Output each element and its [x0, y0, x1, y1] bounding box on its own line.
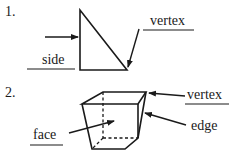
- vertex-label-2: vertex: [187, 87, 222, 102]
- diagram-2-number: 2.: [5, 85, 16, 100]
- face-arrow: [69, 121, 114, 133]
- diagram-1-number: 1.: [5, 4, 16, 19]
- triangle-shape: [80, 10, 127, 70]
- vertex-arrow-2: [149, 93, 185, 96]
- hidden-edges: [93, 92, 138, 148]
- vertex-label-1: vertex: [150, 13, 185, 28]
- prism-shape: [82, 92, 146, 149]
- geometry-diagram: 1. side vertex 2. vertex face edge: [0, 0, 239, 161]
- vertex-arrow-1: [128, 29, 139, 67]
- face-label: face: [33, 127, 56, 142]
- side-label: side: [42, 52, 65, 67]
- edge-arrow: [145, 113, 186, 125]
- edge-label: edge: [191, 118, 217, 133]
